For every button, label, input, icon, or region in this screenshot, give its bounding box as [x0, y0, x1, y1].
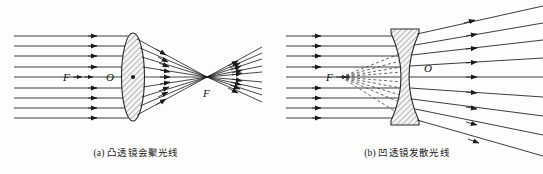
- panel-a-caption: (a) 凸透镜会聚光线: [0, 145, 272, 159]
- panel-b-virtual-rays: [341, 54, 402, 112]
- panel-a-label-focus-left: F: [62, 71, 70, 83]
- panel-b-label-optical-center: O: [424, 62, 432, 74]
- panel-a-post-focus-arrowheads: [228, 61, 242, 93]
- panel-a-label-focus-right: F: [202, 87, 210, 99]
- panel-a-group: F O F: [14, 33, 262, 121]
- convex-lens-center-dot: [131, 75, 135, 79]
- panel-b-label-virtual-focus: F: [325, 71, 333, 83]
- panel-b-caption: (b) 凹透镜发散光线: [271, 145, 543, 159]
- panel-b-diverging-rays: [409, 6, 543, 156]
- panel-b-group: F O: [286, 6, 543, 156]
- panel-a-converging-rays: [137, 39, 207, 115]
- optics-figure: F O F: [0, 0, 543, 174]
- panel-a-label-optical-center: O: [106, 71, 114, 83]
- panel-b-diverging-arrowheads: [464, 20, 479, 143]
